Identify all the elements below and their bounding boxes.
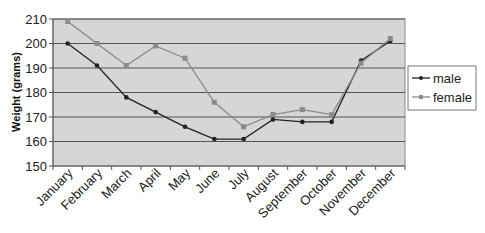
y-tick-label: 150: [25, 159, 47, 174]
plot-area: [53, 19, 405, 166]
data-point: [183, 125, 188, 130]
data-point: [153, 43, 158, 48]
y-tick-label: 180: [25, 85, 47, 100]
y-tick-label: 190: [25, 61, 47, 76]
y-tick-label: 160: [25, 134, 47, 149]
x-tick-label: May: [165, 165, 193, 193]
y-axis-title: Weight (grams): [10, 52, 22, 132]
legend: malefemale: [408, 66, 476, 110]
legend-marker: [419, 76, 423, 80]
data-point: [271, 112, 276, 117]
data-point: [300, 120, 305, 125]
data-point: [65, 41, 70, 46]
data-point: [95, 63, 100, 68]
x-tick-label: June: [192, 166, 223, 197]
y-axis: 150160170180190200210: [25, 12, 53, 174]
data-point: [271, 117, 276, 122]
data-point: [241, 124, 246, 129]
data-point: [65, 19, 70, 24]
x-axis: JanuaryFebruaryMarchAprilMayJuneJulyAugu…: [32, 165, 405, 221]
data-point: [183, 56, 188, 61]
data-point: [241, 137, 246, 142]
legend-marker: [419, 95, 423, 99]
data-point: [212, 100, 217, 105]
data-point: [95, 41, 100, 46]
y-tick-label: 200: [25, 36, 47, 51]
data-point: [329, 112, 334, 117]
legend-label: male: [433, 71, 461, 86]
data-point: [359, 61, 364, 66]
data-point: [329, 120, 334, 125]
data-point: [124, 63, 129, 68]
line-chart: 150160170180190200210 JanuaryFebruaryMar…: [0, 0, 485, 233]
data-point: [124, 95, 129, 100]
y-tick-label: 210: [25, 12, 47, 27]
data-point: [153, 110, 158, 115]
legend-label: female: [433, 90, 472, 105]
x-tick-label: April: [135, 165, 164, 194]
data-point: [300, 107, 305, 112]
x-tick-label: March: [98, 166, 134, 202]
data-point: [388, 36, 393, 41]
y-tick-label: 170: [25, 110, 47, 125]
data-point: [212, 137, 217, 142]
